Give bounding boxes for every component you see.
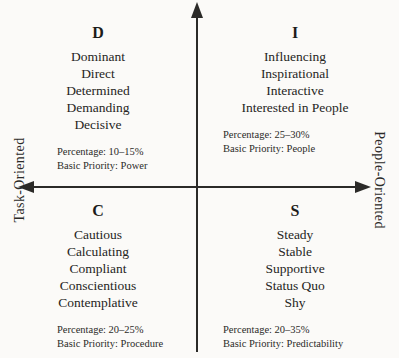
- vertical-axis-line: [196, 14, 198, 352]
- quadrant-letter-s: S: [205, 202, 385, 220]
- quadrant-c: C Cautious Calculating Compliant Conscie…: [8, 202, 188, 351]
- list-item: Stable: [205, 243, 385, 260]
- trait-list-i: Influencing Inspirational Interactive In…: [205, 48, 385, 116]
- quadrant-d: D Dominant Direct Determined Demanding D…: [8, 24, 188, 173]
- quadrant-letter-d: D: [8, 24, 188, 42]
- list-item: Decisive: [8, 116, 188, 133]
- percentage-i: Percentage: 25–30%: [223, 128, 385, 142]
- percentage-c: Percentage: 20–25%: [57, 323, 188, 337]
- quadrant-letter-c: C: [8, 202, 188, 220]
- list-item: Dominant: [8, 48, 188, 65]
- stats-block-s: Percentage: 20–35% Basic Priority: Predi…: [205, 323, 385, 351]
- up-arrow-icon: [191, 2, 203, 18]
- quadrant-i: I Influencing Inspirational Interactive …: [205, 24, 385, 156]
- list-item: Interested in People: [205, 99, 385, 116]
- list-item: Inspirational: [205, 65, 385, 82]
- list-item: Conscientious: [8, 277, 188, 294]
- horizontal-axis-line: [30, 186, 360, 188]
- right-arrow-icon: [355, 181, 371, 193]
- list-item: Direct: [8, 65, 188, 82]
- priority-c: Basic Priority: Procedure: [57, 337, 188, 351]
- percentage-s: Percentage: 20–35%: [223, 323, 385, 337]
- list-item: Contemplative: [8, 294, 188, 311]
- list-item: Compliant: [8, 260, 188, 277]
- quadrant-s: S Steady Stable Supportive Status Quo Sh…: [205, 202, 385, 351]
- trait-list-d: Dominant Direct Determined Demanding Dec…: [8, 48, 188, 133]
- trait-list-s: Steady Stable Supportive Status Quo Shy: [205, 226, 385, 311]
- list-item: Interactive: [205, 82, 385, 99]
- priority-i: Basic Priority: People: [223, 142, 385, 156]
- list-item: Shy: [205, 294, 385, 311]
- stats-block-d: Percentage: 10–15% Basic Priority: Power: [8, 145, 188, 173]
- quadrant-letter-i: I: [205, 24, 385, 42]
- list-item: Demanding: [8, 99, 188, 116]
- priority-s: Basic Priority: Predictability: [223, 337, 385, 351]
- disc-quadrant-diagram: Task-Oriented People-Oriented D Dominant…: [0, 0, 399, 358]
- percentage-d: Percentage: 10–15%: [57, 145, 188, 159]
- list-item: Calculating: [8, 243, 188, 260]
- trait-list-c: Cautious Calculating Compliant Conscient…: [8, 226, 188, 311]
- list-item: Status Quo: [205, 277, 385, 294]
- priority-d: Basic Priority: Power: [57, 159, 188, 173]
- list-item: Cautious: [8, 226, 188, 243]
- list-item: Supportive: [205, 260, 385, 277]
- stats-block-c: Percentage: 20–25% Basic Priority: Proce…: [8, 323, 188, 351]
- list-item: Influencing: [205, 48, 385, 65]
- list-item: Steady: [205, 226, 385, 243]
- stats-block-i: Percentage: 25–30% Basic Priority: Peopl…: [205, 128, 385, 156]
- list-item: Determined: [8, 82, 188, 99]
